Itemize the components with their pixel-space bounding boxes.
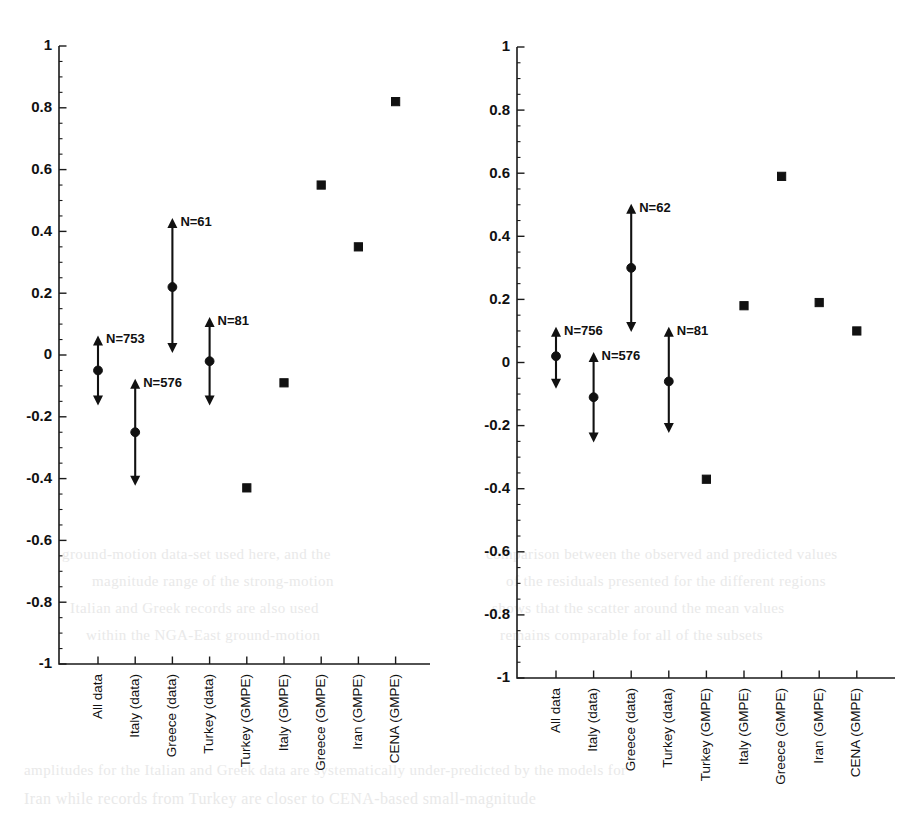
- y-axis-tick-label: 0: [44, 345, 52, 362]
- sample-size-annotation: N=576: [143, 375, 182, 390]
- y-axis-tick-label: 0.8: [489, 101, 510, 118]
- y-axis-tick-label: 0.8: [31, 98, 52, 115]
- x-axis-tick-label: Iran (GMPE): [811, 688, 826, 764]
- left-panel: 10.80.60.40.20-0.2-0.4-0.6-0.8-1All data…: [0, 0, 460, 826]
- data-point-group: N=576: [130, 375, 182, 486]
- y-axis-tick-label: -0.6: [26, 531, 52, 548]
- data-point-group: N=753: [93, 331, 145, 405]
- mean-marker-circle: [94, 366, 103, 375]
- y-axis-tick-label: -0.2: [26, 407, 52, 424]
- error-bar-up-arrow: [93, 335, 103, 345]
- axis-frame: [59, 46, 430, 664]
- y-axis-tick-label: 1: [502, 37, 510, 54]
- x-axis-tick-label: Turkey (GMPE): [238, 674, 253, 767]
- error-bar-down-arrow: [589, 432, 599, 442]
- error-bar-down-arrow: [664, 423, 674, 433]
- y-axis-tick-label: 0.2: [31, 284, 52, 301]
- right-panel-plot: 10.80.60.40.20-0.2-0.4-0.6-0.8-1All data…: [460, 0, 920, 826]
- x-axis-tick-label: Iran (GMPE): [350, 674, 365, 750]
- sample-size-annotation: N=576: [602, 348, 641, 363]
- x-axis-tick-label: Italy (data): [127, 674, 142, 738]
- gmpe-marker-square: [702, 475, 710, 483]
- error-bar-down-arrow: [205, 395, 215, 405]
- x-axis-tick-label: Turkey (data): [201, 674, 216, 754]
- y-axis-tick-label: -0.4: [484, 479, 511, 496]
- y-axis-tick-label: -0.8: [26, 593, 52, 610]
- sample-size-annotation: N=753: [106, 331, 145, 346]
- gmpe-marker-square: [392, 98, 400, 106]
- x-axis-tick-label: Italy (GMPE): [276, 674, 291, 751]
- y-axis-tick-label: 0.4: [489, 227, 511, 244]
- mean-marker-circle: [205, 357, 214, 366]
- error-bar-up-arrow: [664, 327, 674, 337]
- sample-size-annotation: N=61: [180, 214, 211, 229]
- y-axis-tick-label: 0.6: [489, 164, 510, 181]
- error-bar-up-arrow: [205, 317, 215, 327]
- mean-marker-circle: [131, 428, 140, 437]
- x-axis-tick-label: CENA (GMPE): [848, 688, 863, 777]
- error-bar-up-arrow: [551, 327, 561, 337]
- gmpe-marker-square: [740, 302, 748, 310]
- y-axis-tick-label: 1: [44, 36, 52, 53]
- mean-marker-circle: [627, 263, 636, 272]
- y-axis-tick-label: 0: [502, 353, 510, 370]
- gmpe-marker-square: [853, 327, 861, 335]
- mean-marker-circle: [589, 393, 598, 402]
- sample-size-annotation: N=81: [677, 323, 708, 338]
- y-axis-tick-label: -0.2: [484, 416, 510, 433]
- error-bar-up-arrow: [130, 379, 140, 389]
- y-axis-tick-label: -0.6: [484, 542, 510, 559]
- x-axis-tick-label: CENA (GMPE): [387, 674, 402, 763]
- gmpe-marker-square: [778, 172, 786, 180]
- x-axis-tick-label: Greece (data): [623, 688, 638, 771]
- left-panel-plot: 10.80.60.40.20-0.2-0.4-0.6-0.8-1All data…: [0, 0, 460, 826]
- error-bar-down-arrow: [93, 395, 103, 405]
- gmpe-marker-square: [815, 298, 823, 306]
- x-axis-tick-label: Italy (data): [585, 688, 600, 752]
- x-axis-tick-label: Italy (GMPE): [736, 688, 751, 765]
- y-axis-tick-label: -1: [39, 654, 52, 671]
- right-panel: 10.80.60.40.20-0.2-0.4-0.6-0.8-1All data…: [460, 0, 920, 826]
- gmpe-marker-square: [280, 379, 288, 387]
- error-bar-up-arrow: [589, 352, 599, 362]
- data-point-group: N=81: [664, 323, 708, 433]
- y-axis-tick-label: 0.6: [31, 160, 52, 177]
- x-axis-tick-label: All data: [548, 688, 563, 734]
- y-axis-tick-label: 0.4: [31, 222, 53, 239]
- mean-marker-circle: [168, 283, 177, 292]
- axis-frame: [517, 47, 895, 678]
- error-bar-up-arrow: [626, 204, 636, 214]
- x-axis-tick-label: Turkey (GMPE): [698, 688, 713, 781]
- error-bar-down-arrow: [626, 322, 636, 332]
- x-axis-tick-label: Greece (GMPE): [773, 688, 788, 785]
- x-axis-tick-label: Turkey (data): [660, 688, 675, 768]
- data-point-group: N=61: [167, 214, 211, 353]
- data-point-group: N=576: [589, 348, 641, 442]
- error-bar-down-arrow: [130, 476, 140, 486]
- sample-size-annotation: N=756: [564, 323, 603, 338]
- gmpe-marker-square: [354, 243, 362, 251]
- mean-marker-circle: [664, 377, 673, 386]
- mean-marker-circle: [552, 352, 561, 361]
- sample-size-annotation: N=62: [639, 200, 670, 215]
- x-axis-tick-label: All data: [90, 674, 105, 720]
- sample-size-annotation: N=81: [218, 313, 249, 328]
- error-bar-down-arrow: [167, 343, 177, 353]
- data-point-group: N=62: [626, 200, 670, 332]
- error-bar-up-arrow: [167, 218, 177, 228]
- error-bar-down-arrow: [551, 379, 561, 389]
- y-axis-tick-label: -0.4: [26, 469, 53, 486]
- y-axis-tick-label: -1: [497, 668, 510, 685]
- x-axis-tick-label: Greece (data): [164, 674, 179, 757]
- gmpe-marker-square: [243, 484, 251, 492]
- y-axis-tick-label: -0.8: [484, 605, 510, 622]
- gmpe-marker-square: [317, 181, 325, 189]
- x-axis-tick-label: Greece (GMPE): [313, 674, 328, 771]
- figure-container: ground-motion data-set used here, and th…: [0, 0, 920, 826]
- data-point-group: N=81: [205, 313, 249, 406]
- y-axis-tick-label: 0.2: [489, 290, 510, 307]
